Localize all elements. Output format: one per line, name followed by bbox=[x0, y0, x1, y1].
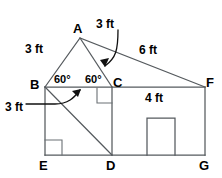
leader-ac-arrowhead bbox=[100, 58, 109, 67]
vertex-label-a: A bbox=[73, 22, 82, 35]
vertex-label-f: F bbox=[206, 76, 214, 89]
vertex-label-c: C bbox=[113, 76, 122, 89]
leader-bd-line bbox=[26, 90, 80, 104]
door-rectangle-icon bbox=[147, 118, 175, 155]
vertex-label-g: G bbox=[199, 159, 209, 172]
dimension-label-ac: 3 ft bbox=[96, 18, 114, 30]
dimension-label-cf: 4 ft bbox=[145, 92, 163, 104]
dimension-label-ba: 3 ft bbox=[25, 43, 43, 55]
vertex-label-d: D bbox=[106, 159, 115, 172]
dimension-label-af: 6 ft bbox=[139, 44, 157, 56]
vertex-label-b: B bbox=[30, 78, 39, 91]
angle-label-b: 60° bbox=[54, 74, 71, 85]
dimension-label-bd: 3 ft bbox=[5, 101, 23, 113]
geometry-figure: A B C D E F G 3 ft 3 ft 6 ft 3 ft 4 ft 6… bbox=[0, 0, 222, 178]
angle-label-c: 60° bbox=[85, 74, 102, 85]
leader-bd-arrowhead bbox=[72, 89, 81, 97]
right-angle-at-e-icon bbox=[45, 140, 62, 155]
edge-b-d bbox=[45, 87, 112, 155]
right-angle-at-c-icon bbox=[97, 88, 112, 103]
vertex-label-e: E bbox=[39, 159, 48, 172]
